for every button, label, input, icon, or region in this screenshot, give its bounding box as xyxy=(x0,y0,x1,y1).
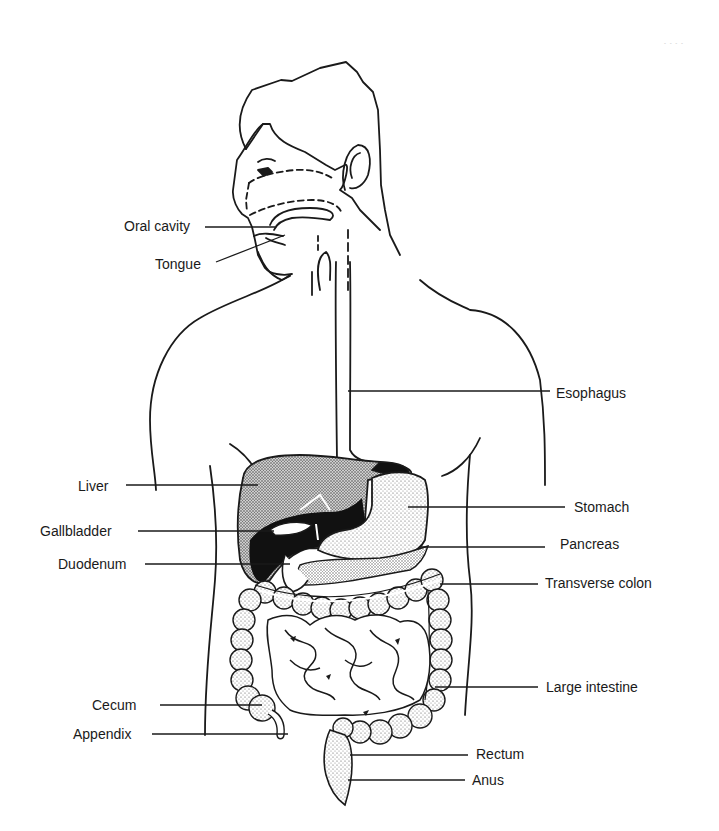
pharynx-curve xyxy=(318,252,330,290)
rectum xyxy=(324,730,352,805)
label-duodenum: Duodenum xyxy=(58,556,127,572)
small-intestine xyxy=(267,615,430,715)
esophagus-right-wall xyxy=(350,262,380,462)
label-esophagus: Esophagus xyxy=(556,385,626,401)
tongue-shape xyxy=(254,234,283,236)
label-cecum: Cecum xyxy=(92,697,136,713)
right-torso-side xyxy=(442,438,480,476)
label-stomach: Stomach xyxy=(574,499,629,515)
label-large-intestine: Large intestine xyxy=(546,679,638,695)
leader-line-tongue xyxy=(216,235,285,262)
esophagus-left-wall xyxy=(336,262,340,465)
label-anus: Anus xyxy=(472,772,504,788)
label-appendix: Appendix xyxy=(73,726,131,742)
label-rectum: Rectum xyxy=(476,746,524,762)
right-shoulder xyxy=(420,280,545,485)
eyebrow xyxy=(258,159,275,162)
ear-inner xyxy=(350,153,360,178)
label-oral-cavity: Oral cavity xyxy=(124,218,190,234)
face-profile xyxy=(246,124,380,230)
label-transverse-colon: Transverse colon xyxy=(545,575,652,591)
left-torso-line xyxy=(205,466,216,735)
jaw xyxy=(258,252,290,280)
label-pancreas: Pancreas xyxy=(560,536,619,552)
right-torso-line xyxy=(465,455,472,715)
label-liver: Liver xyxy=(78,478,108,494)
nasal-dashed-down xyxy=(246,183,249,212)
label-gallbladder: Gallbladder xyxy=(40,523,112,539)
palate-dashed xyxy=(250,200,342,215)
oral-arch xyxy=(270,208,333,230)
label-tongue: Tongue xyxy=(155,256,201,272)
